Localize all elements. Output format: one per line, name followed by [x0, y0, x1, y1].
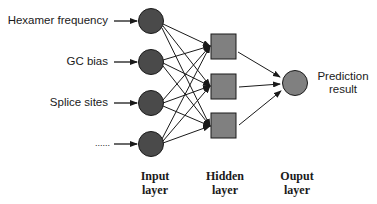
input-label-hexamer-frequency: Hexamer frequency [8, 14, 109, 26]
layer-label-output-line1: Ouput [280, 169, 313, 183]
output-label-line1: Prediction [317, 70, 368, 82]
input-node [139, 91, 164, 116]
output-node [283, 71, 308, 96]
input-node [139, 50, 164, 75]
input-label-more: ...... [95, 138, 110, 148]
hidden-output-connections [238, 52, 281, 125]
input-label-splice-sites: Splice sites [50, 96, 108, 108]
hidden-node [211, 74, 236, 99]
hidden-node [211, 34, 236, 59]
output-label-line2: result [329, 83, 358, 95]
hidden-layer-nodes [211, 34, 236, 138]
layer-label-input-line2: layer [142, 183, 169, 197]
input-hidden-connections [162, 24, 210, 143]
input-label-gc-bias: GC bias [66, 55, 108, 67]
layer-label-output-line2: layer [284, 183, 311, 197]
neural-network-diagram: Hexamer frequency GC bias Splice sites .… [0, 0, 377, 204]
hidden-node [211, 113, 236, 138]
input-arrows [114, 21, 137, 144]
input-node [139, 9, 164, 34]
input-node [139, 132, 164, 157]
layer-label-hidden-line1: Hidden [206, 169, 244, 183]
input-layer-nodes [139, 9, 164, 157]
layer-label-hidden-line2: layer [212, 183, 239, 197]
layer-label-input-line1: Input [141, 169, 170, 183]
